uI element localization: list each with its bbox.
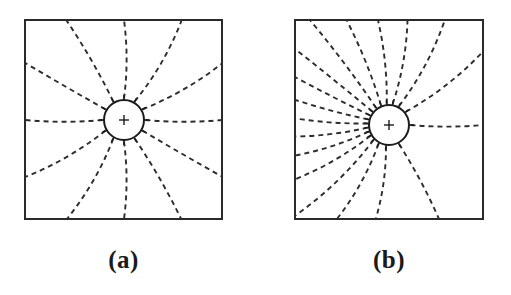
panel-b (289, 14, 489, 225)
panel-caption-b: (b) (295, 247, 483, 272)
figure-root: (a)(b) (0, 0, 511, 295)
panel-a (19, 14, 228, 225)
panel-caption-a: (a) (25, 247, 222, 272)
